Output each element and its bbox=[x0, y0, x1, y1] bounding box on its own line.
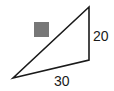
bottom-side-length-label: 30 bbox=[54, 73, 70, 89]
triangle-shape bbox=[13, 7, 89, 78]
gray-square-marker bbox=[34, 22, 49, 37]
triangle-diagram: 20 30 bbox=[0, 0, 114, 91]
vertical-side-length-label: 20 bbox=[93, 28, 109, 44]
